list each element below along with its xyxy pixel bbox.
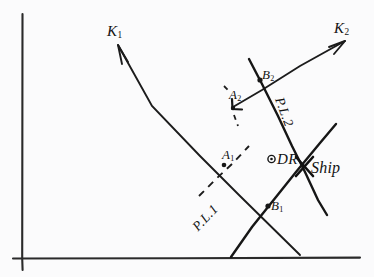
navigation-diagram-svg xyxy=(0,0,374,277)
a1-point xyxy=(222,163,227,168)
label-b2: B2 xyxy=(262,68,274,81)
diagram-canvas: K1 K2 A1 A2 B1 B2 DR Ship P.L.1 P.L.2 xyxy=(0,0,374,277)
label-a2: A2 xyxy=(229,88,241,101)
label-k1: K1 xyxy=(107,24,122,39)
b1-point xyxy=(265,203,270,208)
position-line-1 xyxy=(231,124,336,257)
k1-arrowhead xyxy=(118,45,128,64)
label-b1: B1 xyxy=(271,199,283,212)
course-line-k2 xyxy=(233,41,345,107)
a2-dash-lower xyxy=(234,115,238,126)
label-a1: A1 xyxy=(222,148,234,161)
a2-point xyxy=(231,106,235,110)
label-k2: K2 xyxy=(334,21,349,36)
label-dr: DR xyxy=(277,152,298,167)
dr-symbol-dot xyxy=(270,158,273,161)
label-ship: Ship xyxy=(311,160,340,176)
x-axis xyxy=(13,258,360,259)
